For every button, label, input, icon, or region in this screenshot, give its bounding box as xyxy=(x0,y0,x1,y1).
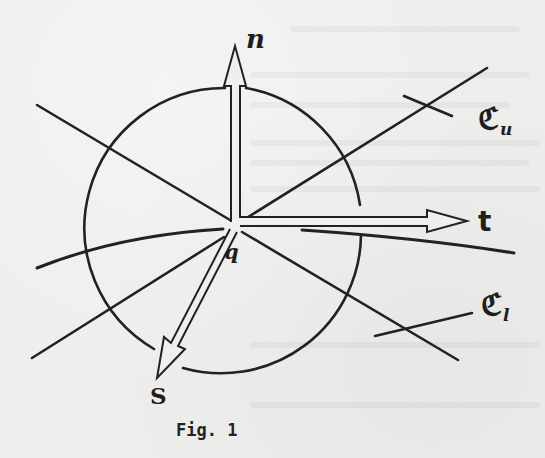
surface-curve-left xyxy=(37,229,223,268)
lower-cone-label: ℭl xyxy=(481,290,509,324)
lower-cone-subscript: l xyxy=(503,305,509,325)
upper-cone-subscript: u xyxy=(500,119,512,139)
figure-caption: Fig. 1 xyxy=(176,420,237,440)
upper-cone-indicator xyxy=(404,96,452,116)
tangent-label: t xyxy=(478,208,491,236)
lower-cone-line-right xyxy=(242,232,458,360)
figure-diagram xyxy=(0,0,545,458)
circle-arc-left xyxy=(84,88,225,349)
upper-cone-symbol: ℭ xyxy=(478,101,499,136)
normal-label: n xyxy=(246,26,265,52)
upper-cone-line-right xyxy=(245,68,487,219)
lower-cone-indicator xyxy=(375,313,472,336)
tangent-arrow xyxy=(240,210,467,232)
upper-cone-label: ℭu xyxy=(478,104,512,138)
circle-arc-right-lower xyxy=(183,235,361,373)
point-label: q xyxy=(224,241,239,262)
circle-arc-right xyxy=(246,88,360,205)
binormal-label: S xyxy=(150,384,167,407)
lower-cone-symbol: ℭ xyxy=(481,287,502,322)
normal-arrow xyxy=(224,46,246,222)
